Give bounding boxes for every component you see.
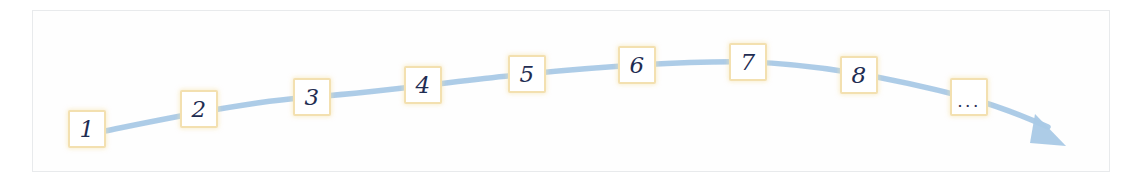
- step-node-label: 4: [415, 74, 430, 97]
- step-node-4[interactable]: 4: [404, 66, 442, 104]
- step-node-label: 1: [79, 118, 94, 141]
- step-node-6[interactable]: 6: [618, 46, 656, 84]
- step-node-ellipsis[interactable]: ...: [950, 78, 988, 116]
- step-node-5[interactable]: 5: [508, 55, 546, 93]
- step-node-label: 3: [304, 86, 319, 109]
- step-node-2[interactable]: 2: [180, 90, 218, 128]
- curve-path: [105, 62, 1048, 131]
- step-node-3[interactable]: 3: [293, 78, 331, 116]
- step-node-label: 7: [740, 51, 755, 74]
- step-node-label: 6: [629, 54, 644, 77]
- step-node-label: 2: [191, 98, 206, 121]
- step-node-1[interactable]: 1: [68, 110, 106, 148]
- step-node-7[interactable]: 7: [729, 43, 767, 81]
- step-node-label: 5: [519, 63, 534, 86]
- step-node-8[interactable]: 8: [840, 56, 878, 94]
- step-node-label: 8: [851, 64, 866, 87]
- step-node-label: ...: [957, 93, 981, 110]
- diagram-canvas: 1 2 3 4 5 6 7 8 ...: [0, 0, 1141, 182]
- arrowhead-icon: [1030, 114, 1066, 146]
